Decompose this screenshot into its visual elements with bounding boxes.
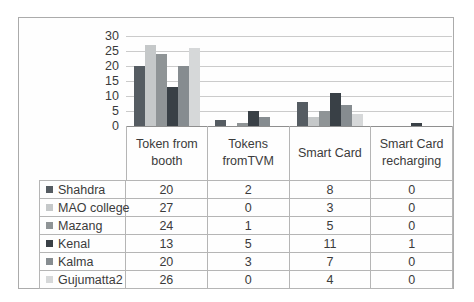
y-axis-tick-label: 15 — [77, 75, 119, 88]
table-row-legend: Shahdra — [39, 181, 126, 199]
plot-area — [126, 36, 452, 127]
data-table: Token from boothTokens fromTVMSmart Card… — [39, 126, 453, 289]
bar-group — [289, 36, 371, 126]
figure-page: 051015202530 Token from boothTokens from… — [0, 0, 474, 302]
legend-marker — [46, 240, 53, 247]
legend-label: Mazang — [58, 219, 102, 233]
bar — [167, 87, 178, 126]
table-row-legend: Mazang — [39, 217, 126, 235]
value-cell: 4 — [290, 271, 372, 289]
legend-label: MAO college — [58, 201, 130, 215]
value-cell: 11 — [290, 235, 372, 253]
table-row-legend: MAO college — [39, 199, 126, 217]
legend-marker — [46, 258, 53, 265]
value-cell: 5 — [208, 235, 290, 253]
value-cell: 1 — [208, 217, 290, 235]
bar-group — [208, 36, 290, 126]
value-cell: 8 — [290, 181, 372, 199]
bar — [145, 45, 156, 126]
value-cell: 0 — [208, 199, 290, 217]
legend-marker — [46, 222, 53, 229]
value-cell: 1 — [371, 235, 453, 253]
bar — [134, 66, 145, 126]
value-cell: 0 — [208, 271, 290, 289]
legend-marker — [46, 204, 53, 211]
bar — [308, 117, 319, 126]
value-cell: 27 — [126, 199, 208, 217]
value-cell: 26 — [126, 271, 208, 289]
y-axis-tick-label: 25 — [77, 45, 119, 58]
bar — [156, 54, 167, 126]
bar — [259, 117, 270, 126]
table-corner-cell — [39, 126, 126, 181]
table-row-legend: Kenal — [39, 235, 126, 253]
value-cell: 0 — [371, 199, 453, 217]
bar — [248, 111, 259, 126]
y-axis-tick-label: 30 — [77, 30, 119, 43]
category-label: Smart Card recharging — [371, 126, 453, 181]
legend-label: Gujumatta2 — [58, 273, 123, 287]
y-axis-tick-label: 10 — [77, 90, 119, 103]
chart-figure: 051015202530 Token from boothTokens from… — [18, 17, 454, 289]
value-cell: 20 — [126, 181, 208, 199]
y-axis-tick-label: 20 — [77, 60, 119, 73]
value-cell: 0 — [371, 253, 453, 271]
category-label: Tokens fromTVM — [208, 126, 290, 181]
bar — [330, 93, 341, 126]
bar-group — [371, 36, 453, 126]
bar — [297, 102, 308, 126]
value-cell: 2 — [208, 181, 290, 199]
value-cell: 0 — [371, 271, 453, 289]
value-cell: 3 — [208, 253, 290, 271]
bar-group — [126, 36, 208, 126]
y-axis-tick-label: 5 — [77, 105, 119, 118]
bar — [189, 48, 200, 126]
legend-label: Shahdra — [58, 183, 105, 197]
legend-label: Kenal — [58, 237, 90, 251]
value-cell: 0 — [371, 181, 453, 199]
legend-label: Kalma — [58, 255, 93, 269]
category-label: Smart Card — [290, 126, 372, 181]
value-cell: 0 — [371, 217, 453, 235]
legend-marker — [46, 186, 53, 193]
value-cell: 20 — [126, 253, 208, 271]
value-cell: 7 — [290, 253, 372, 271]
value-cell: 5 — [290, 217, 372, 235]
legend-marker — [46, 276, 53, 283]
table-row-legend: Gujumatta2 — [39, 271, 126, 289]
bar — [352, 114, 363, 126]
value-cell: 13 — [126, 235, 208, 253]
category-label: Token from booth — [126, 126, 208, 181]
bar — [341, 105, 352, 126]
value-cell: 24 — [126, 217, 208, 235]
table-row-legend: Kalma — [39, 253, 126, 271]
bar — [319, 111, 330, 126]
value-cell: 3 — [290, 199, 372, 217]
bar — [178, 66, 189, 126]
